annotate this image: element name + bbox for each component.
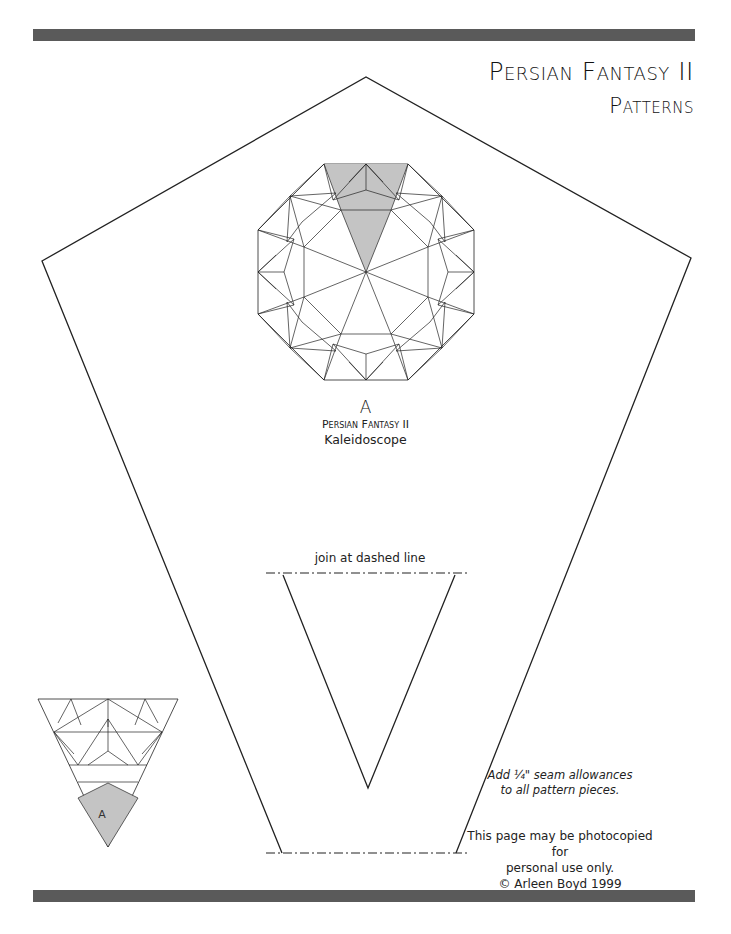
piece-a-preview [38, 699, 178, 847]
pattern-name: Persian Fantasy II [0, 418, 731, 431]
seam-allowance-note: Add ¼" seam allowances to all pattern pi… [460, 768, 660, 798]
dashed-join-lines [266, 573, 470, 853]
page-title: Persian Fantasy II [488, 57, 694, 86]
page-subtitle: Patterns [609, 93, 694, 118]
seam-note-line: to all pattern pieces. [460, 783, 660, 798]
kaleidoscope-block [258, 164, 474, 380]
pattern-description: Kaleidoscope [0, 432, 731, 447]
seam-note-line: Add ¼" seam allowances [460, 768, 660, 783]
bottom-rule-bar [33, 890, 695, 902]
copy-note-line: personal use only. [460, 860, 660, 876]
join-instruction: join at dashed line [300, 551, 440, 565]
piece-a-label: A [98, 808, 106, 821]
copy-note-line: This page may be photocopied for [460, 828, 660, 860]
copyright-note: This page may be photocopied for persona… [460, 828, 660, 892]
block-letter: A [0, 397, 731, 417]
